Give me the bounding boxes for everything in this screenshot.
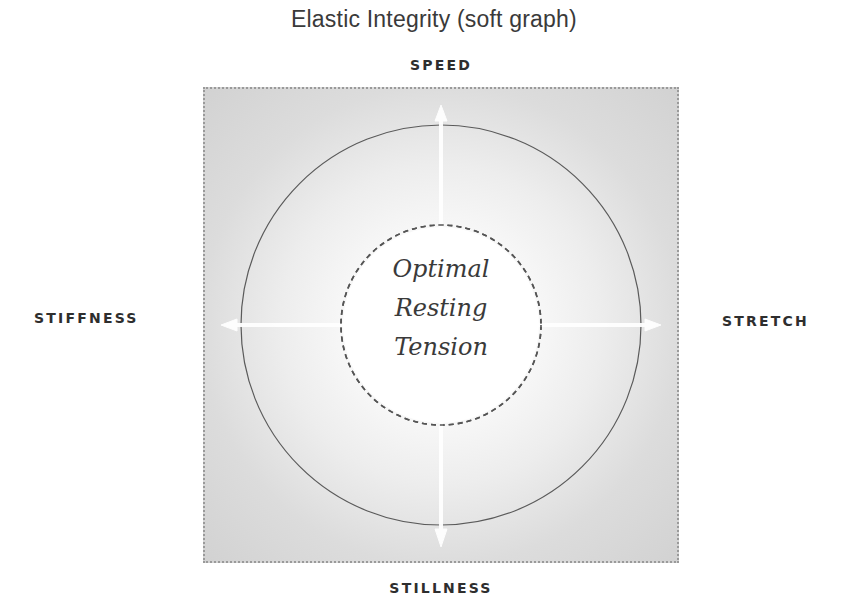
center-label: Optimal Resting Tension: [341, 250, 541, 367]
axis-label-speed: SPEED: [0, 57, 868, 73]
center-label-line-1: Optimal: [341, 250, 541, 289]
diagram-title: Elastic Integrity (soft graph): [0, 6, 868, 33]
axis-label-stretch: STRETCH: [722, 313, 809, 329]
axis-label-stiffness: STIFFNESS: [34, 310, 139, 326]
center-label-line-2: Resting: [341, 289, 541, 328]
center-label-line-3: Tension: [341, 328, 541, 367]
axis-label-stillness: STILLNESS: [0, 580, 868, 596]
